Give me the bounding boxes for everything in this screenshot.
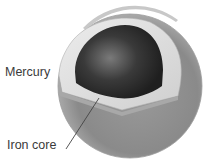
- planet-label: Mercury: [5, 65, 50, 79]
- core-label: Iron core: [7, 138, 56, 152]
